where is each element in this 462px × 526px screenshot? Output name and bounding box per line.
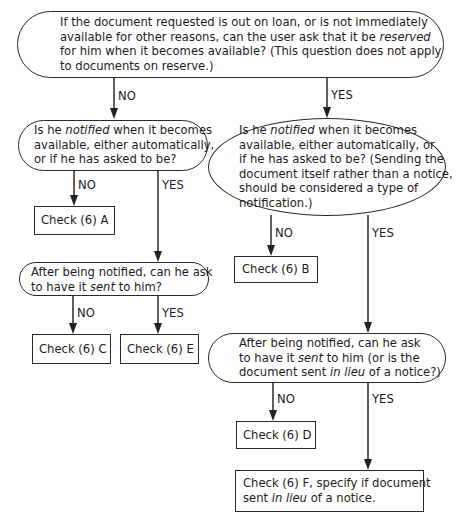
q3-left-yes-label: YES — [162, 307, 184, 320]
q2-right-no-label: NO — [275, 227, 293, 240]
decision-sent-left: After being notified, can he ask to have… — [19, 262, 209, 296]
decision-sent-left-text: After being notified, can he ask to have… — [31, 265, 213, 294]
q1-no-label: NO — [118, 90, 136, 103]
decision-notified-right: Is he notified when it becomes available… — [208, 118, 446, 216]
outcome-check-6a: Check (6) A — [34, 206, 115, 235]
outcome-check-6b: Check (6) B — [234, 256, 318, 283]
decision-notified-right-text: Is he notified when it becomes available… — [239, 123, 453, 211]
outcome-check-6d-text: Check (6) D — [243, 428, 311, 443]
q3-right-yes-label: YES — [372, 393, 394, 406]
q3-right-no-label: NO — [277, 393, 295, 406]
outcome-check-6e: Check (6) E — [120, 334, 199, 364]
outcome-check-6f-text: Check (6) F, specify if document sent in… — [243, 476, 431, 505]
decision-notified-left: Is he notified when it becomes available… — [18, 120, 208, 171]
outcome-check-6d: Check (6) D — [236, 421, 316, 449]
q3-left-no-label: NO — [77, 307, 95, 320]
outcome-check-6e-text: Check (6) E — [127, 342, 194, 357]
outcome-check-6c-text: Check (6) C — [39, 342, 107, 357]
q2-left-yes-label: YES — [162, 179, 184, 192]
q1-yes-label: YES — [331, 89, 353, 102]
decision-notified-left-text: Is he notified when it becomes available… — [34, 123, 214, 167]
q2-left-no-label: NO — [78, 179, 96, 192]
decision-sent-right: After being notified, can he ask to have… — [208, 333, 446, 383]
outcome-check-6f: Check (6) F, specify if document sent in… — [235, 470, 424, 512]
outcome-check-6b-text: Check (6) B — [242, 262, 309, 277]
outcome-check-6c: Check (6) C — [32, 334, 111, 364]
outcome-check-6a-text: Check (6) A — [41, 213, 108, 228]
decision-reserve-text: If the document requested is out on loan… — [60, 15, 441, 73]
q2-right-yes-label: YES — [372, 227, 394, 240]
decision-reserve: If the document requested is out on loan… — [17, 11, 444, 78]
decision-sent-right-text: After being notified, can he ask to have… — [239, 336, 441, 380]
